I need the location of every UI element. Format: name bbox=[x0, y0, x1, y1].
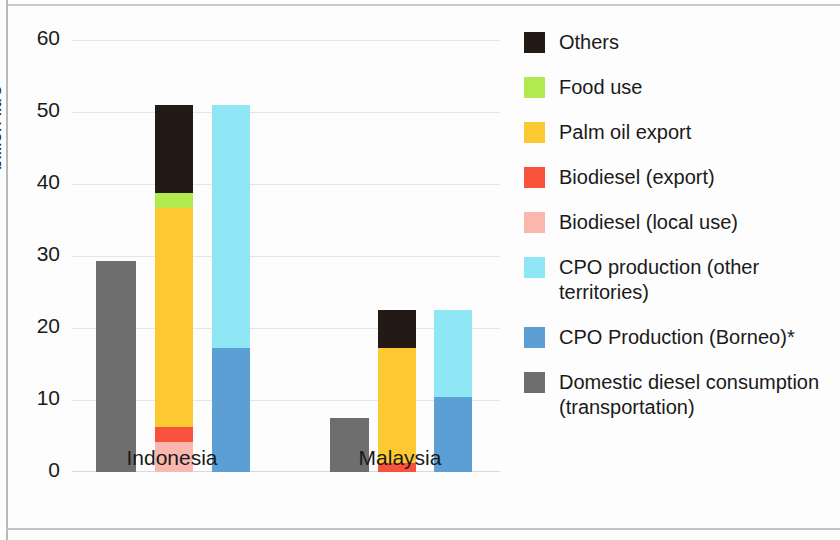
legend-item[interactable]: Palm oil export bbox=[524, 120, 836, 145]
legend-item-label: Palm oil export bbox=[559, 120, 691, 145]
bar-segment[interactable] bbox=[155, 105, 193, 193]
legend-item[interactable]: Domestic diesel consumption (transportat… bbox=[524, 370, 836, 420]
legend-swatch-icon bbox=[524, 122, 545, 143]
gridline bbox=[72, 40, 500, 41]
chart-legend: OthersFood usePalm oil exportBiodiesel (… bbox=[524, 30, 836, 440]
x-tick-label: Malaysia bbox=[320, 446, 480, 470]
legend-swatch-icon bbox=[524, 327, 545, 348]
y-tick-label: 50 bbox=[16, 98, 60, 122]
bar-segment[interactable] bbox=[155, 193, 193, 208]
legend-swatch-icon bbox=[524, 257, 545, 278]
legend-item[interactable]: Food use bbox=[524, 75, 836, 100]
legend-item[interactable]: CPO Production (Borneo)* bbox=[524, 325, 836, 350]
legend-item-label: Biodiesel (export) bbox=[559, 165, 715, 190]
y-tick-label: 40 bbox=[16, 170, 60, 194]
page-frame-top bbox=[6, 4, 840, 6]
bar-segment[interactable] bbox=[378, 310, 416, 348]
indonesia-diesel-bar[interactable] bbox=[96, 261, 136, 472]
legend-item-label: Biodiesel (local use) bbox=[559, 210, 738, 235]
y-tick-label: 60 bbox=[16, 26, 60, 50]
indonesia-cpo-production-bar[interactable] bbox=[212, 105, 250, 472]
gridline bbox=[72, 256, 500, 257]
legend-item[interactable]: CPO production (other territories) bbox=[524, 255, 836, 305]
legend-swatch-icon bbox=[524, 77, 545, 98]
legend-item-label: Domestic diesel consumption (transportat… bbox=[559, 370, 819, 420]
page-frame-left bbox=[6, 0, 8, 540]
bar-segment[interactable] bbox=[96, 261, 136, 472]
legend-swatch-icon bbox=[524, 167, 545, 188]
legend-item-label: CPO Production (Borneo)* bbox=[559, 325, 795, 350]
legend-item-label: CPO production (other territories) bbox=[559, 255, 836, 305]
y-tick-label: 10 bbox=[16, 386, 60, 410]
legend-item[interactable]: Biodiesel (local use) bbox=[524, 210, 836, 235]
legend-swatch-icon bbox=[524, 212, 545, 233]
x-tick-label: Indonesia bbox=[92, 446, 252, 470]
gridline bbox=[72, 112, 500, 113]
legend-swatch-icon bbox=[524, 32, 545, 53]
legend-item-label: Food use bbox=[559, 75, 642, 100]
legend-item-label: Others bbox=[559, 30, 619, 55]
legend-item[interactable]: Others bbox=[524, 30, 836, 55]
legend-swatch-icon bbox=[524, 372, 545, 393]
y-tick-label: 20 bbox=[16, 314, 60, 338]
y-axis-label: billion litre bbox=[0, 86, 6, 170]
gridline bbox=[72, 184, 500, 185]
indonesia-palm-oil-use-bar[interactable] bbox=[155, 105, 193, 472]
y-tick-label: 30 bbox=[16, 242, 60, 266]
page-frame-bottom bbox=[6, 528, 840, 530]
plot-area bbox=[72, 40, 500, 472]
legend-item[interactable]: Biodiesel (export) bbox=[524, 165, 836, 190]
y-tick-label: 0 bbox=[16, 458, 60, 482]
bar-segment[interactable] bbox=[212, 105, 250, 348]
bar-segment[interactable] bbox=[155, 427, 193, 442]
bar-segment[interactable] bbox=[434, 310, 472, 397]
bar-segment[interactable] bbox=[155, 208, 193, 427]
chart-figure: billion litre 6050403020100 IndonesiaMal… bbox=[0, 0, 840, 540]
